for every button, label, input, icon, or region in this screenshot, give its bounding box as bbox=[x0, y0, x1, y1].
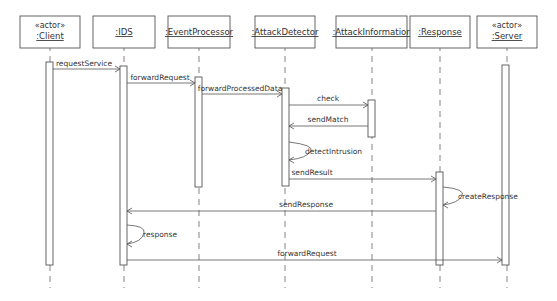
participant-label: :Client bbox=[36, 31, 64, 41]
message-label: createResponse bbox=[458, 192, 518, 201]
message-label: requestService bbox=[56, 59, 113, 68]
message-send-match: sendMatch bbox=[289, 115, 368, 129]
stereotype-label: «actor» bbox=[492, 21, 523, 30]
message-forward-processed-data: forwardProcessedData bbox=[198, 84, 283, 97]
activation-ids bbox=[120, 66, 127, 265]
participant-server: «actor» :Server bbox=[477, 16, 537, 48]
activation-client bbox=[46, 62, 53, 265]
activation-attack-detector bbox=[282, 88, 289, 186]
participant-label: :Response bbox=[418, 27, 462, 37]
self-message-arrow bbox=[127, 225, 144, 244]
message-label: check bbox=[317, 94, 340, 103]
participant-label: :Server bbox=[492, 31, 523, 41]
message-label: forwardRequest bbox=[277, 249, 336, 258]
activation-attack-information bbox=[368, 100, 375, 137]
message-response: response bbox=[127, 225, 177, 247]
participant-label: :IDS bbox=[115, 27, 132, 37]
message-check: check bbox=[289, 94, 368, 108]
message-label: sendMatch bbox=[308, 115, 349, 124]
participant-label: :EventProcessor bbox=[165, 27, 234, 37]
participant-attack-detector: :AttackDetector bbox=[251, 16, 319, 48]
participant-attack-information: :AttackInformation bbox=[332, 16, 411, 48]
message-label: detectIntrusion bbox=[305, 147, 362, 156]
message-label: response bbox=[143, 230, 177, 239]
message-detect-intrusion: detectIntrusion bbox=[289, 142, 362, 163]
message-request-service: requestService bbox=[53, 59, 120, 72]
activation-event-processor bbox=[195, 77, 202, 187]
activation-response bbox=[436, 172, 443, 265]
message-forward-request-2: forwardRequest bbox=[127, 249, 502, 263]
participant-event-processor: :EventProcessor bbox=[165, 16, 234, 48]
activation-server bbox=[502, 65, 509, 265]
stereotype-label: «actor» bbox=[35, 21, 66, 30]
participant-response: :Response bbox=[410, 16, 470, 48]
participant-ids: :IDS bbox=[93, 16, 155, 48]
message-label: forwardProcessedData bbox=[198, 84, 283, 93]
message-label: sendResponse bbox=[279, 200, 333, 209]
participant-label: :AttackInformation bbox=[332, 27, 411, 37]
message-send-response: sendResponse bbox=[127, 200, 436, 214]
participant-label: :AttackDetector bbox=[251, 27, 319, 37]
sequence-diagram: «actor» :Client :IDS :EventProcessor :At… bbox=[0, 0, 557, 301]
participant-client: «actor» :Client bbox=[20, 16, 80, 48]
message-send-result: sendResult bbox=[289, 168, 436, 182]
message-label: forwardRequest bbox=[130, 73, 189, 82]
message-label: sendResult bbox=[291, 168, 332, 177]
message-forward-request-1: forwardRequest bbox=[127, 73, 195, 86]
